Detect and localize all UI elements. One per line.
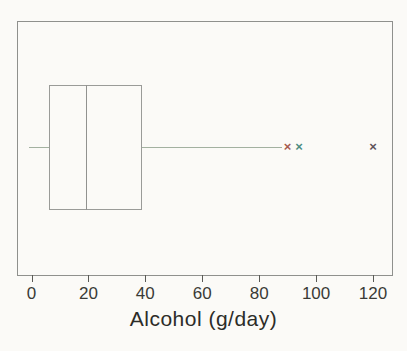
- x-tick-label: 0: [2, 284, 62, 304]
- x-tick-label: 120: [343, 284, 403, 304]
- x-tick-label: 60: [172, 284, 232, 304]
- x-tick-label: 80: [229, 284, 289, 304]
- x-axis-tick: [373, 275, 374, 282]
- x-axis-tick: [145, 275, 146, 282]
- x-axis-title: Alcohol (g/day): [0, 307, 407, 331]
- boxplot-figure: 020406080100120××× Alcohol (g/day): [0, 0, 407, 351]
- x-tick-label: 20: [58, 284, 118, 304]
- x-tick-label: 40: [115, 284, 175, 304]
- x-axis-tick: [259, 275, 260, 282]
- x-axis-tick: [88, 275, 89, 282]
- chart-layer: 020406080100120×××: [0, 0, 407, 351]
- median-line: [86, 85, 87, 210]
- x-axis-tick: [316, 275, 317, 282]
- box-iqr: [49, 85, 143, 210]
- whisker-right: [142, 147, 281, 148]
- x-axis-tick: [202, 275, 203, 282]
- x-tick-label: 100: [286, 284, 346, 304]
- outlier-marker: ×: [292, 140, 306, 153]
- x-axis-tick: [32, 275, 33, 282]
- outlier-marker: ×: [366, 140, 380, 153]
- whisker-left: [29, 147, 49, 148]
